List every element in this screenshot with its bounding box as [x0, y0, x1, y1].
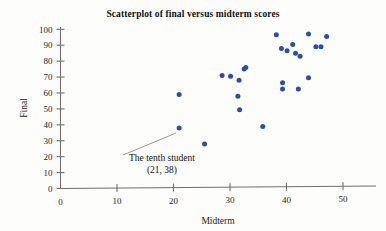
y-tick-label: 10 — [44, 168, 54, 178]
data-point — [235, 94, 240, 99]
x-tick-label: 40 — [282, 195, 292, 205]
annotation-label-line1: The tenth student — [129, 153, 195, 163]
data-point — [177, 126, 182, 131]
x-tick-label: 30 — [226, 195, 236, 205]
data-point — [296, 87, 301, 92]
data-point — [237, 107, 242, 112]
x-axis-title: Midterm — [201, 216, 235, 226]
data-point — [220, 73, 225, 78]
scatterplot-figure: Scatterplot of final versus midterm scor… — [0, 0, 386, 231]
data-point — [306, 75, 311, 80]
data-point — [306, 32, 311, 37]
y-tick-label: 40 — [44, 120, 54, 130]
data-point — [280, 80, 285, 85]
annotation-leader-line — [123, 133, 176, 155]
y-tick-label: 90 — [44, 40, 54, 50]
data-point — [324, 34, 329, 39]
y-axis-title: Final — [19, 98, 29, 118]
y-tick-label: 0 — [48, 184, 53, 194]
x-axis — [61, 186, 377, 189]
y-tick-label: 100 — [39, 25, 53, 35]
y-tick-label: 30 — [44, 136, 54, 146]
data-point — [290, 42, 295, 47]
data-point — [279, 46, 284, 51]
x-tick-group: 01020304050 — [58, 182, 348, 206]
data-point — [298, 54, 303, 59]
x-tick-label: 10 — [113, 196, 123, 206]
data-point — [177, 92, 182, 97]
data-point — [274, 32, 279, 37]
data-point — [318, 44, 323, 49]
y-tick-label: 70 — [44, 72, 54, 82]
data-point — [280, 87, 285, 92]
data-point — [228, 74, 233, 79]
plot-area: 0102030405060708090100 01020304050 Midte… — [0, 0, 386, 231]
annotation-label-line2: (21, 38) — [147, 165, 177, 176]
data-point — [202, 141, 207, 146]
data-point — [260, 124, 265, 129]
data-point — [293, 51, 298, 56]
data-point — [237, 78, 242, 83]
data-points — [177, 32, 329, 147]
x-tick-label: 50 — [339, 194, 349, 204]
y-tick-label: 60 — [44, 88, 54, 98]
y-tick-label: 80 — [44, 56, 54, 66]
data-point — [243, 65, 248, 70]
x-tick-label: 0 — [58, 197, 63, 207]
data-point — [313, 44, 318, 49]
x-tick-label: 20 — [169, 196, 179, 206]
y-tick-label: 20 — [44, 152, 54, 162]
x-axis-line — [61, 186, 377, 189]
y-tick-label: 50 — [44, 104, 54, 114]
data-point — [285, 48, 290, 53]
